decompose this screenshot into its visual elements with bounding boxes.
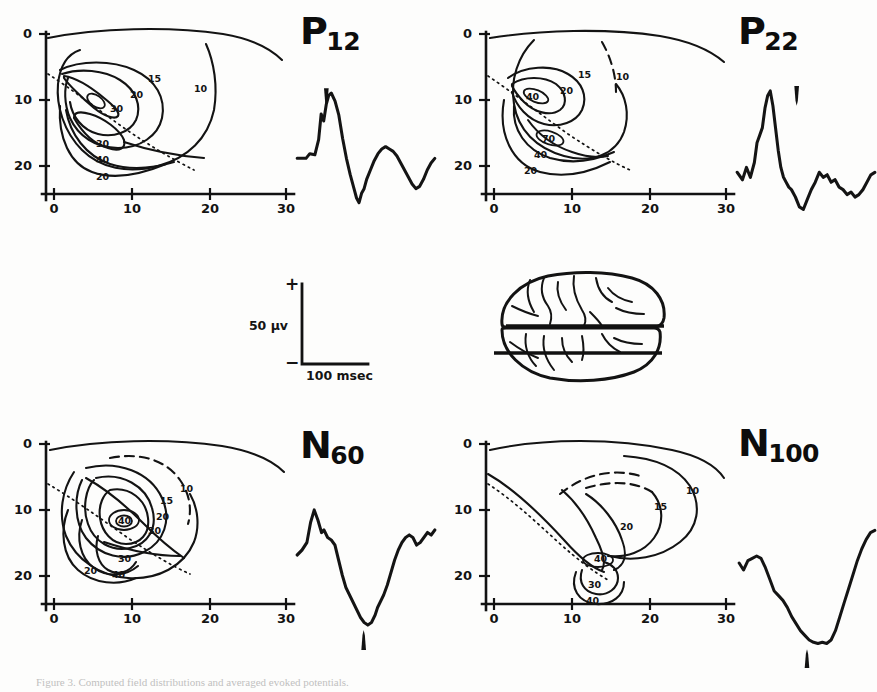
- contour-label-70: 70: [542, 133, 556, 144]
- contour-label-40-lower: 40: [112, 569, 126, 580]
- stimulus-arrow-icon: [361, 630, 366, 650]
- contour-map-p12: 0 10 20 0 10 20 30: [8, 22, 298, 212]
- panel-title-n100-base: N: [738, 421, 769, 465]
- x-label-0: 0: [489, 201, 498, 216]
- contour-label-20: 20: [560, 85, 574, 96]
- trace-polyline-p22: [737, 91, 875, 209]
- contour-label-20-lower: 20: [96, 171, 110, 182]
- panel-title-n60-base: N: [300, 423, 331, 467]
- x-label-10: 10: [563, 201, 581, 216]
- evoked-trace-p22-svg: [736, 86, 876, 234]
- x-label-30: 30: [717, 201, 735, 216]
- panel-title-n100-sub: 100: [768, 439, 819, 468]
- x-label-10: 10: [123, 611, 141, 626]
- contour-label-10: 10: [194, 83, 208, 94]
- brain-schematic-diagram: [486, 268, 676, 388]
- trace-polyline-n100: [739, 530, 875, 643]
- stimulus-arrow-icon: [805, 649, 810, 668]
- contour-label-10: 10: [686, 485, 700, 496]
- brain-upper-outline: [502, 272, 664, 327]
- x-label-10: 10: [123, 201, 141, 216]
- calibration-scale-svg: + − 50 µv 100 msec: [240, 272, 370, 382]
- figure-caption: Figure 3. Computed field distributions a…: [36, 676, 846, 689]
- contour-map-n100: 0 10 20 0 10 20 30: [448, 432, 738, 622]
- panel-title-p12-base: P: [300, 9, 327, 53]
- x-label-30: 30: [277, 611, 295, 626]
- y-label-10: 10: [454, 92, 472, 107]
- sulcus-l7: [614, 338, 642, 344]
- x-label-10: 10: [563, 611, 581, 626]
- contour-label-20: 20: [620, 521, 634, 532]
- contour-label-40-lower: 40: [586, 595, 600, 606]
- sulcus-u9: [590, 312, 602, 326]
- contour-15-dashed-2: [586, 483, 652, 492]
- x-label-20: 20: [201, 201, 219, 216]
- evoked-trace-n100-svg: [738, 528, 876, 668]
- panel-title-n60-sub: 60: [330, 441, 364, 470]
- evoked-trace-n60-svg: [296, 500, 436, 650]
- contour-label-15: 15: [578, 69, 591, 80]
- sulcus-u3: [557, 282, 566, 310]
- x-label-20: 20: [641, 611, 659, 626]
- y-label-10: 10: [14, 502, 32, 517]
- y-label-0: 0: [23, 26, 32, 41]
- x-label-20: 20: [201, 611, 219, 626]
- contour-label-30-lower: 30: [588, 579, 602, 590]
- calibration-scale-bar: + − 50 µv 100 msec: [240, 272, 370, 382]
- cortical-surface-outline: [490, 31, 724, 62]
- contour-label-20-lower: 20: [524, 165, 538, 176]
- y-label-20: 20: [454, 158, 472, 173]
- evoked-trace-n60: [296, 500, 436, 650]
- contour-label-20-lower: 20: [84, 565, 98, 576]
- contour-map-n60: 0 10 20 0 10 20 30: [8, 432, 298, 622]
- sulcus-l6: [510, 342, 538, 358]
- contour-label-15: 15: [160, 495, 173, 506]
- evoked-trace-p12: [296, 86, 436, 226]
- panel-title-n100: N100: [738, 424, 820, 462]
- y-label-0: 0: [463, 436, 472, 451]
- contour-label-30-lower: 30: [118, 553, 132, 564]
- panel-title-p12: P12: [300, 12, 361, 50]
- contour-label-40: 40: [96, 154, 110, 165]
- brain-schematic-svg: [486, 268, 676, 388]
- stimulus-arrow-icon: [794, 86, 799, 106]
- contour-15-dashed: [560, 473, 640, 494]
- y-label-20: 20: [454, 568, 472, 583]
- panel-title-n60: N60: [300, 426, 365, 464]
- sulcus-u6: [608, 288, 632, 302]
- sulcus-l3: [562, 338, 572, 362]
- y-label-20: 20: [14, 568, 32, 583]
- x-label-30: 30: [717, 611, 735, 626]
- contour-label-20: 20: [130, 89, 144, 100]
- polarity-positive-label: +: [285, 274, 299, 294]
- panel-title-p22: P22: [738, 12, 799, 50]
- contour-map-p22: 0 10 20 0 10 20 30: [448, 22, 738, 212]
- x-label-30: 30: [277, 201, 295, 216]
- contour-label-40: 40: [118, 515, 132, 526]
- panel-title-p22-base: P: [738, 9, 765, 53]
- y-label-10: 10: [14, 92, 32, 107]
- sulcus-l4: [582, 336, 584, 360]
- time-scale-label: 100 msec: [306, 368, 373, 383]
- y-label-20: 20: [14, 158, 32, 173]
- contour-label-30: 30: [148, 525, 162, 536]
- y-label-10: 10: [454, 502, 472, 517]
- scale-corner-line: [302, 284, 368, 364]
- contour-map-p22-svg: 0 10 20 0 10 20 30: [448, 22, 738, 212]
- panel-title-p22-sub: 22: [764, 27, 798, 56]
- contour-40-lower: [66, 110, 174, 168]
- amplitude-scale-label: 50 µv: [249, 318, 288, 333]
- sulcus-u2: [542, 278, 551, 324]
- x-label-0: 0: [489, 611, 498, 626]
- sulcus-l1: [525, 334, 536, 366]
- y-label-0: 0: [463, 26, 472, 41]
- polarity-negative-label: −: [285, 352, 299, 372]
- contour-label-40-upper: 40: [526, 91, 540, 102]
- panel-title-p12-sub: 12: [326, 27, 360, 56]
- sulcus-u4: [573, 276, 585, 326]
- sulcus-u7: [616, 308, 644, 314]
- sulcus-l5: [602, 334, 620, 352]
- contour-10-dashed: [602, 42, 616, 92]
- contour-label-15: 15: [148, 73, 161, 84]
- contour-label-40-lower: 40: [534, 149, 548, 160]
